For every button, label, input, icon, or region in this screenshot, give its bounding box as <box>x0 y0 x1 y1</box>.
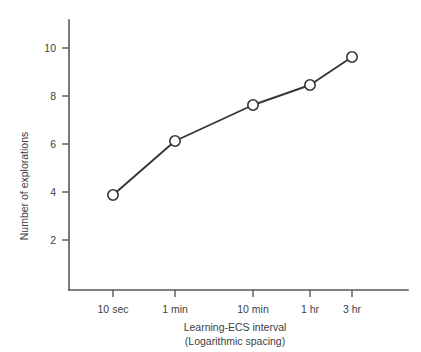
chart-figure: 10 8 6 4 2 10 sec 1 min 10 min 1 hr 3 hr <box>0 0 421 352</box>
x-tick-label-1-min: 1 min <box>162 303 188 315</box>
y-axis-title: Number of explorations <box>18 132 30 241</box>
x-tick-label-1-hr: 1 hr <box>301 303 320 315</box>
x-tick-label-3-hr: 3 hr <box>343 303 362 315</box>
data-point-1-min[interactable] <box>170 136 180 146</box>
y-tick-label-2: 2 <box>50 234 56 246</box>
y-tick-label-10: 10 <box>44 42 56 54</box>
line-chart: 10 8 6 4 2 10 sec 1 min 10 min 1 hr 3 hr <box>0 0 421 352</box>
x-tick-marks <box>113 290 352 297</box>
data-point-10-min[interactable] <box>248 100 258 110</box>
data-point-1-hr[interactable] <box>305 80 315 90</box>
y-tick-marks <box>62 48 69 240</box>
data-markers <box>108 52 357 200</box>
data-series-line <box>113 57 352 195</box>
x-axis-title: Learning-ECS interval <box>184 321 287 333</box>
y-tick-label-8: 8 <box>50 90 56 102</box>
data-point-10-sec[interactable] <box>108 190 118 200</box>
y-tick-label-6: 6 <box>50 138 56 150</box>
data-point-3-hr[interactable] <box>347 52 357 62</box>
x-tick-label-10-sec: 10 sec <box>98 303 129 315</box>
y-tick-label-4: 4 <box>50 186 56 198</box>
x-axis-subtitle: (Logarithmic spacing) <box>185 335 285 347</box>
x-tick-label-10-min: 10 min <box>237 303 269 315</box>
